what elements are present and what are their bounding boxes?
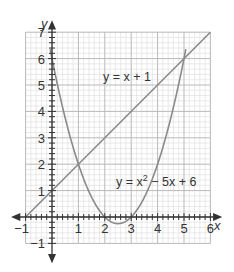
- y-tick-label: 3: [38, 131, 45, 146]
- x-tick-label: 1: [75, 221, 82, 236]
- chart-figure: −1123456−11234567 y x y = x + 1 y = x2 −…: [0, 0, 234, 272]
- y-tick-label: 4: [38, 104, 45, 119]
- curves: [26, 32, 211, 223]
- parabola-label-part-a: y = x: [116, 175, 143, 189]
- y-tick-label: 5: [38, 78, 45, 93]
- line-series: [26, 32, 211, 217]
- y-tick-label: 6: [38, 52, 45, 67]
- parabola-label-part-b: − 5x + 6: [148, 175, 197, 189]
- line-equation-label: y = x + 1: [103, 70, 151, 84]
- x-tick-label: 5: [180, 221, 187, 236]
- x-tick-label: 6: [207, 221, 214, 236]
- x-tick-label: 4: [154, 221, 161, 236]
- y-tick-label: 2: [38, 157, 45, 172]
- x-axis-label: x: [213, 218, 221, 233]
- x-tick-label: 3: [128, 221, 135, 236]
- parabola-equation-label: y = x2 − 5x + 6: [116, 173, 196, 189]
- x-tick-label: −1: [14, 221, 29, 236]
- y-tick-label: 1: [38, 184, 45, 199]
- x-tick-label: 2: [101, 221, 108, 236]
- y-axis-label: y: [40, 16, 49, 31]
- y-tick-label: −1: [30, 236, 45, 251]
